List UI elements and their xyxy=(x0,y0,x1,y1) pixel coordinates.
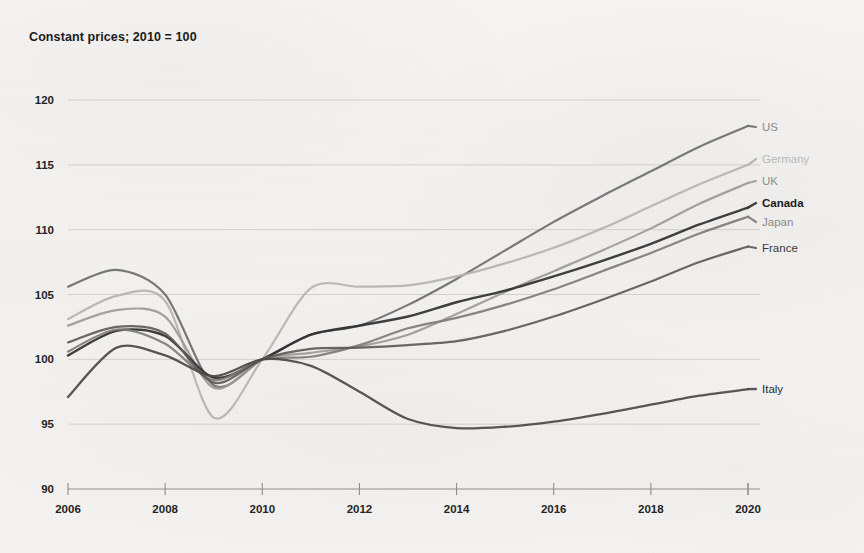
x-axis-tick-label: 2018 xyxy=(638,503,664,515)
x-axis-tick-label: 2012 xyxy=(347,503,373,515)
series-leader-uk xyxy=(748,181,756,183)
series-leader-france xyxy=(748,247,756,248)
series-line-italy xyxy=(68,346,748,429)
x-axis-tick-label: 2020 xyxy=(735,503,761,515)
y-axis-tick-labels: 1201151101051009590 xyxy=(35,94,55,495)
x-axis-tick-label: 2008 xyxy=(152,503,178,515)
axes xyxy=(68,483,760,495)
y-axis-tick-label: 100 xyxy=(35,353,54,365)
x-axis-tick-label: 2006 xyxy=(55,503,81,515)
series-label-japan: Japan xyxy=(762,216,793,228)
series-line-japan xyxy=(68,217,748,381)
y-axis-tick-label: 115 xyxy=(35,159,54,171)
y-axis-tick-label: 110 xyxy=(35,224,54,236)
data-series-group xyxy=(68,126,748,429)
y-axis-tick-label: 120 xyxy=(35,94,54,106)
series-label-france: France xyxy=(762,242,798,254)
series-line-canada xyxy=(68,208,748,378)
x-axis-tick-labels: 20062008201020122014201620182020 xyxy=(55,503,761,515)
series-line-france xyxy=(68,247,748,384)
y-axis-tick-label: 90 xyxy=(41,483,54,495)
x-axis-tick-label: 2010 xyxy=(249,503,275,515)
series-label-uk: UK xyxy=(762,175,778,187)
series-leader-us xyxy=(748,126,756,127)
series-label-germany: Germany xyxy=(762,153,810,165)
x-axis-tick-label: 2014 xyxy=(444,503,470,515)
series-line-germany xyxy=(68,165,748,419)
y-axis-tick-label: 95 xyxy=(41,418,54,430)
series-leader-canada xyxy=(748,203,756,208)
series-end-labels: USGermanyUKCanadaJapanFranceItaly xyxy=(748,121,810,395)
series-leader-germany xyxy=(748,159,756,165)
series-label-canada: Canada xyxy=(762,197,804,209)
x-axis-tick-label: 2016 xyxy=(541,503,567,515)
series-label-italy: Italy xyxy=(762,383,783,395)
y-axis-tick-label: 105 xyxy=(35,289,55,301)
line-chart: 1201151101051009590 20062008201020122014… xyxy=(0,0,864,553)
series-label-us: US xyxy=(762,121,778,133)
gridlines xyxy=(68,100,760,424)
series-leader-japan xyxy=(748,217,756,222)
